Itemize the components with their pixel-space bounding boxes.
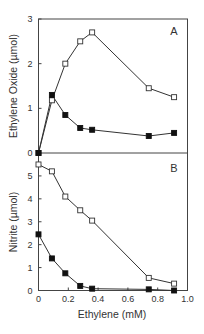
y-tick-label: 2 <box>27 240 32 250</box>
filled-square-marker <box>49 256 54 261</box>
x-tick-label: 0.8 <box>151 294 164 304</box>
open-square-marker <box>49 98 54 103</box>
open-square-marker <box>146 275 151 280</box>
x-tick-label: 0 <box>36 294 41 304</box>
filled-square-marker <box>90 127 95 132</box>
filled-square-marker <box>78 125 83 130</box>
open-square-marker <box>78 208 83 213</box>
filled-square-marker <box>90 286 95 291</box>
y-tick-label: 4 <box>27 194 32 204</box>
x-tick-label: 1.0 <box>181 294 194 304</box>
y-tick-label: 1 <box>27 103 32 113</box>
open-square-marker <box>78 39 83 44</box>
y-axis-label-a: Ethylene Oxide (µmol) <box>7 34 19 138</box>
plot-border <box>39 19 188 291</box>
filled-square-marker <box>49 92 54 97</box>
x-axis-label: Ethylene (mM) <box>78 308 146 320</box>
data-series <box>36 30 177 293</box>
filled-square-marker <box>63 113 68 118</box>
y-axis-label-b: Nitrite (µmol) <box>7 192 19 252</box>
filled-square-marker <box>172 130 177 135</box>
open-square-marker <box>63 194 68 199</box>
open-square-marker <box>49 169 54 174</box>
filled-square-marker <box>36 151 41 156</box>
series-line <box>39 95 175 153</box>
panel-label-a: A <box>170 25 178 37</box>
y-tick-label: 0 <box>27 148 32 158</box>
filled-square-marker <box>172 288 177 293</box>
x-tick-label: 0.2 <box>62 294 75 304</box>
filled-square-marker <box>146 134 151 139</box>
y-tick-label: 1 <box>27 263 32 273</box>
open-square-marker <box>90 30 95 35</box>
filled-square-marker <box>63 271 68 276</box>
y-tick-label: 5 <box>27 171 32 181</box>
panel-label-b: B <box>170 162 177 174</box>
filled-square-marker <box>36 232 41 237</box>
x-tick-label: 0.4 <box>92 294 105 304</box>
open-square-marker <box>172 281 177 286</box>
y-tick-label: 3 <box>27 217 32 227</box>
filled-square-marker <box>78 283 83 288</box>
filled-square-marker <box>146 287 151 292</box>
chart-figure: 012301234500.20.40.60.81.0 A B Ethylene … <box>0 0 204 334</box>
series-line <box>39 234 175 290</box>
y-tick-label: 3 <box>27 14 32 24</box>
plot-frame <box>39 19 188 291</box>
open-square-marker <box>90 218 95 223</box>
x-tick-label: 0.6 <box>122 294 135 304</box>
y-tick-label: 2 <box>27 59 32 69</box>
open-square-marker <box>63 61 68 66</box>
open-square-marker <box>172 95 177 100</box>
open-square-marker <box>36 162 41 167</box>
y-tick-label: 0 <box>27 286 32 296</box>
open-square-marker <box>146 86 151 91</box>
